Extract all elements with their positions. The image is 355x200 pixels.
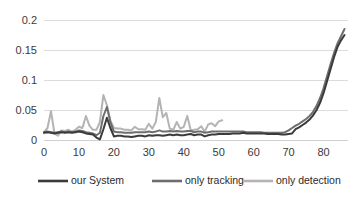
x-tick-label: 0 xyxy=(41,146,47,158)
x-tick-label: 70 xyxy=(282,146,294,158)
x-axis-tick-labels: 01020304050607080 xyxy=(41,146,330,158)
chart-container: 00.050.10.150.2 01020304050607080 our Sy… xyxy=(0,0,355,200)
x-tick-label: 20 xyxy=(108,146,120,158)
x-tick-label: 60 xyxy=(248,146,260,158)
x-tick-label: 10 xyxy=(73,146,85,158)
y-tick-label: 0.15 xyxy=(16,44,37,56)
x-tick-label: 30 xyxy=(143,146,155,158)
x-tick-label: 80 xyxy=(317,146,329,158)
x-tick-label: 50 xyxy=(213,146,225,158)
chart-legend: our Systemonly trackingonly detection xyxy=(38,174,341,186)
y-tick-label: 0.05 xyxy=(16,104,37,116)
x-tick-label: 40 xyxy=(178,146,190,158)
chart-background xyxy=(0,0,355,200)
legend-label-our-system: our System xyxy=(71,174,124,186)
legend-label-only-detection: only detection xyxy=(276,174,341,186)
legend-label-only-tracking: only tracking xyxy=(185,174,244,186)
y-tick-label: 0.1 xyxy=(22,74,37,86)
y-tick-label: 0 xyxy=(31,134,37,146)
line-chart: 00.050.10.150.2 01020304050607080 our Sy… xyxy=(0,0,355,200)
y-tick-label: 0.2 xyxy=(22,14,37,26)
